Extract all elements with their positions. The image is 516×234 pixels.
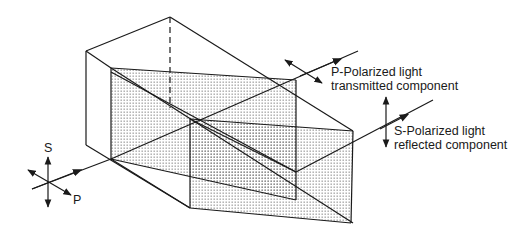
- reflected-label-line2: reflected component: [394, 138, 507, 152]
- input-p-label: P: [73, 193, 81, 207]
- edge-top-left: [86, 17, 170, 51]
- edge-top-front-left: [86, 51, 111, 68]
- transmitted-label-line2: transmitted component: [331, 79, 458, 93]
- transmitted-label-line1: P-Polarized light: [331, 65, 458, 79]
- reflected-label-line1: S-Polarized light: [394, 124, 507, 138]
- input-p-arrow: [28, 170, 71, 195]
- reflected-label: S-Polarized light reflected component: [394, 124, 507, 152]
- input-s-label: S: [44, 141, 52, 155]
- transmitted-label: P-Polarized light transmitted component: [331, 65, 458, 93]
